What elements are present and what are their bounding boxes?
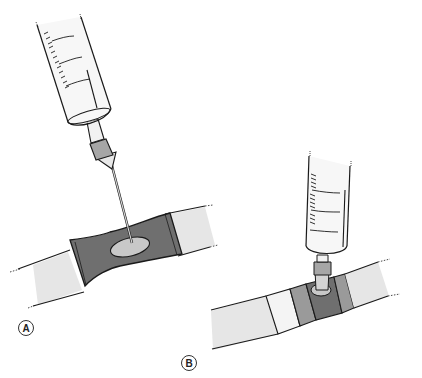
panel-label-b: B [181,355,197,371]
panel-a-syringe [36,14,132,243]
panel-b-tubing [211,259,400,350]
illustration-canvas [0,0,422,378]
panel-b-syringe [306,151,351,290]
panel-label-a: A [18,320,34,336]
